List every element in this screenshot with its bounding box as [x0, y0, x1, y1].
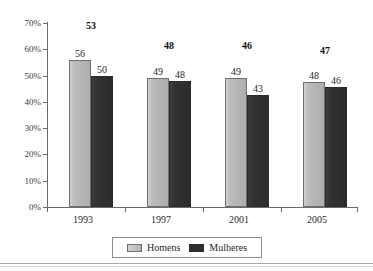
legend-item-mulheres[interactable]: Mulheres	[189, 243, 247, 253]
bar-value-label: 49	[153, 67, 163, 77]
x-axis-label-2005: 2005	[295, 214, 339, 225]
bar-chart: 70% 60% 50% 40% 30% 20% 10% 0% 53 56 50 …	[0, 0, 373, 271]
bar-value-label: 56	[75, 49, 85, 59]
y-axis-labels: 70% 60% 50% 40% 30% 20% 10% 0%	[0, 0, 41, 271]
y-axis-label: 10%	[7, 177, 41, 186]
group-total-label: 53	[86, 21, 96, 31]
bar-homens-2001[interactable]: 49	[225, 78, 247, 207]
bar-group-1997: 48 49 48	[147, 23, 191, 207]
bar-value-label: 49	[231, 67, 241, 77]
y-axis-label: 60%	[7, 45, 41, 54]
y-axis-label: 30%	[7, 124, 41, 133]
bar-homens-2005[interactable]: 48	[303, 82, 325, 207]
x-axis-label-1997: 1997	[139, 214, 183, 225]
bar-homens-1993[interactable]: 56	[69, 60, 91, 207]
bar-value-label: 48	[309, 71, 319, 81]
group-total-label: 48	[164, 41, 174, 51]
bar-mulheres-1997[interactable]: 48	[169, 81, 191, 207]
footer-divider-secondary	[0, 266, 373, 267]
footer-divider	[0, 263, 373, 264]
bar-value-label: 50	[97, 65, 107, 75]
y-axis-label: 0%	[7, 203, 41, 212]
group-total-label: 47	[320, 46, 330, 56]
chart-legend: Homens Mulheres	[112, 237, 262, 258]
bar-group-1993: 53 56 50	[69, 23, 113, 207]
x-axis-tick	[203, 207, 204, 212]
legend-item-homens[interactable]: Homens	[127, 243, 180, 253]
x-axis-tick	[357, 207, 358, 212]
bar-mulheres-1993[interactable]: 50	[91, 76, 113, 207]
legend-label: Mulheres	[209, 243, 247, 253]
x-axis-tick	[125, 207, 126, 212]
y-axis-label: 70%	[7, 19, 41, 28]
y-axis-label: 20%	[7, 150, 41, 159]
x-axis-tick	[47, 207, 48, 212]
y-axis-label: 40%	[7, 98, 41, 107]
y-axis-label: 50%	[7, 72, 41, 81]
bar-value-label: 48	[175, 70, 185, 80]
bar-homens-1997[interactable]: 49	[147, 78, 169, 207]
group-total-label: 46	[242, 41, 252, 51]
bar-group-2001: 46 49 43	[225, 23, 269, 207]
x-axis-tick	[281, 207, 282, 212]
x-axis-label-1993: 1993	[61, 214, 105, 225]
bar-group-2005: 47 48 46	[303, 23, 347, 207]
plot-area: 53 56 50 48 49 48 46 49 43	[47, 23, 357, 207]
bar-value-label: 43	[253, 84, 263, 94]
bar-mulheres-2001[interactable]: 43	[247, 95, 269, 207]
bar-value-label: 46	[331, 76, 341, 86]
legend-swatch-icon	[189, 244, 204, 252]
legend-swatch-icon	[127, 244, 142, 252]
legend-label: Homens	[147, 243, 180, 253]
bar-mulheres-2005[interactable]: 46	[325, 87, 347, 207]
x-axis-label-2001: 2001	[217, 214, 261, 225]
